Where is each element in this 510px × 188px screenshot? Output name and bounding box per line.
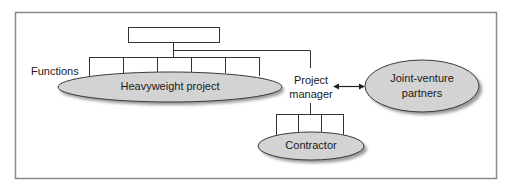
heavyweight-project-label: Heavyweight project [120, 80, 219, 93]
project-manager-label-line1: Project [294, 74, 328, 87]
joint-venture-partners-ellipse [365, 60, 479, 112]
joint-venture-label-line2: partners [402, 87, 442, 100]
senior-management-box [129, 28, 220, 43]
joint-venture-label-line1: Joint-venture [390, 72, 454, 85]
contractor-label: Contractor [285, 139, 336, 152]
functions-label: Functions [31, 65, 79, 78]
project-manager-label-line2: manager [289, 88, 332, 101]
